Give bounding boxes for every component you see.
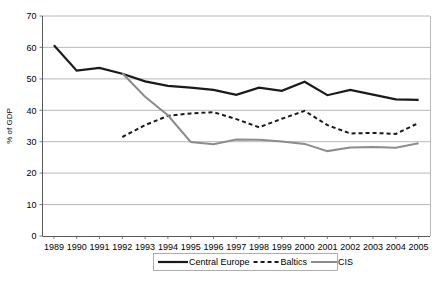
y-tick-label-40: 40	[26, 106, 36, 116]
x-tick-label-1992: 1992	[112, 242, 132, 252]
y-tick-label-60: 60	[26, 43, 36, 53]
x-tick-label-1998: 1998	[249, 242, 269, 252]
y-tick-label-70: 70	[26, 11, 36, 21]
y-axis-title: % of GDP	[5, 108, 14, 144]
x-tick-label-2003: 2003	[363, 242, 383, 252]
x-tick-label-1996: 1996	[203, 242, 223, 252]
x-tick-label-2001: 2001	[317, 242, 337, 252]
x-tick-label-2002: 2002	[340, 242, 360, 252]
y-tick-label-30: 30	[26, 137, 36, 147]
x-tick-label-1999: 1999	[272, 242, 292, 252]
x-tick-label-1990: 1990	[67, 242, 87, 252]
x-tick-label-1993: 1993	[135, 242, 155, 252]
x-tick-label-1997: 1997	[226, 242, 246, 252]
y-tick-label-20: 20	[26, 168, 36, 178]
x-tick-labels: 1989199019911992199319941995199619971998…	[44, 242, 429, 252]
chart-container: 010203040506070 198919901991199219931994…	[0, 0, 447, 281]
x-tick-label-2004: 2004	[386, 242, 406, 252]
x-tick-label-1995: 1995	[181, 242, 201, 252]
x-tick-label-1989: 1989	[44, 242, 64, 252]
x-tick-label-1994: 1994	[158, 242, 178, 252]
y-tick-label-10: 10	[26, 200, 36, 210]
y-tick-label-50: 50	[26, 74, 36, 84]
legend-label-cis[interactable]: CIS	[338, 257, 353, 267]
y-tick-label-0: 0	[31, 231, 36, 241]
x-tick-label-2000: 2000	[295, 242, 315, 252]
legend-label-baltics[interactable]: Baltics	[281, 257, 308, 267]
x-tick-label-2005: 2005	[409, 242, 429, 252]
line-chart: 010203040506070 198919901991199219931994…	[0, 0, 447, 281]
chart-legend: Central EuropeBalticsCIS	[154, 254, 354, 271]
chart-background	[0, 0, 447, 281]
x-tick-label-1991: 1991	[89, 242, 109, 252]
legend-label-central-europe[interactable]: Central Europe	[189, 257, 250, 267]
